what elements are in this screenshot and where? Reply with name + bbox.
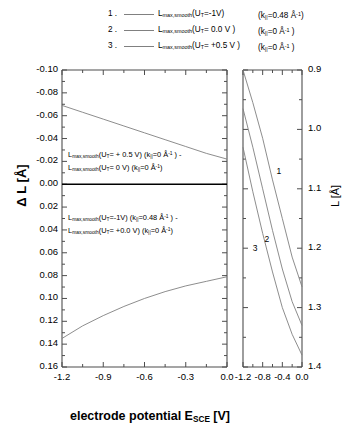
right-panel-y-axis-title: L [Å] [329,161,341,231]
tick-label: -0.06 [18,109,58,120]
tick-label: 0.02 [18,200,58,211]
tick-label: 0.14 [18,337,58,348]
right-panel-ticks [243,70,302,367]
annotation-upper-line2: Lmax,smooth(UT= 0 V) (k||=0 Å-1) [68,162,182,175]
tick-label: 1.1 [308,182,321,193]
tick-label: -0.9 [83,371,123,382]
data-curve [243,70,302,287]
curve-label: 3 [253,243,258,253]
tick-label: 0.00 [18,177,58,188]
tick-label: 1.2 [308,241,321,252]
figure-container: 1 . Lmax,smooth(UT=-1V) (k||=0.48 Å-1) 2… [0,0,347,440]
curve-label: 1 [277,166,282,176]
curve-label: 2 [265,234,270,244]
tick-label: -1.2 [42,371,82,382]
data-curve [243,109,302,326]
tick-label: 0.16 [18,360,58,371]
tick-label: 0.06 [18,246,58,257]
annotation-upper-line1: Lmax,smooth(UT= + 0.5 V) (k||=0 Å-1 ) - [68,149,182,162]
tick-label: -0.10 [18,63,58,74]
tick-label: 0.9 [308,63,321,74]
tick-label: -0.08 [18,86,58,97]
tick-label: -0.6 [125,371,165,382]
tick-label: -0.04 [18,132,58,143]
tick-label: 1.4 [308,360,321,371]
annotation-lower: Lmax,smooth(UT=-1V) (k||=0.48 Å-1 ) - Lm… [68,212,178,238]
annotation-lower-line2: Lmax,smooth(UT= +0.0 V) (k||=0 Å-1) [68,225,178,238]
tick-label: 0.04 [18,223,58,234]
annotation-lower-line1: Lmax,smooth(UT=-1V) (k||=0.48 Å-1 ) - [68,212,178,225]
tick-label: 1.0 [308,122,321,133]
annotation-upper: Lmax,smooth(UT= + 0.5 V) (k||=0 Å-1 ) - … [68,149,182,175]
tick-label: 0.08 [18,269,58,280]
tick-label: 1.3 [308,301,321,312]
tick-label: -0.3 [166,371,206,382]
tick-label: -0.02 [18,154,58,165]
tick-label: 0.10 [18,291,58,302]
tick-label: 0.12 [18,314,58,325]
data-curve [62,277,227,339]
tick-label: 0.0 [282,371,322,382]
right-panel-curves [243,70,302,355]
right-panel-axes [243,70,302,367]
x-axis-title: electrode potential ESCE [V] [0,409,300,424]
